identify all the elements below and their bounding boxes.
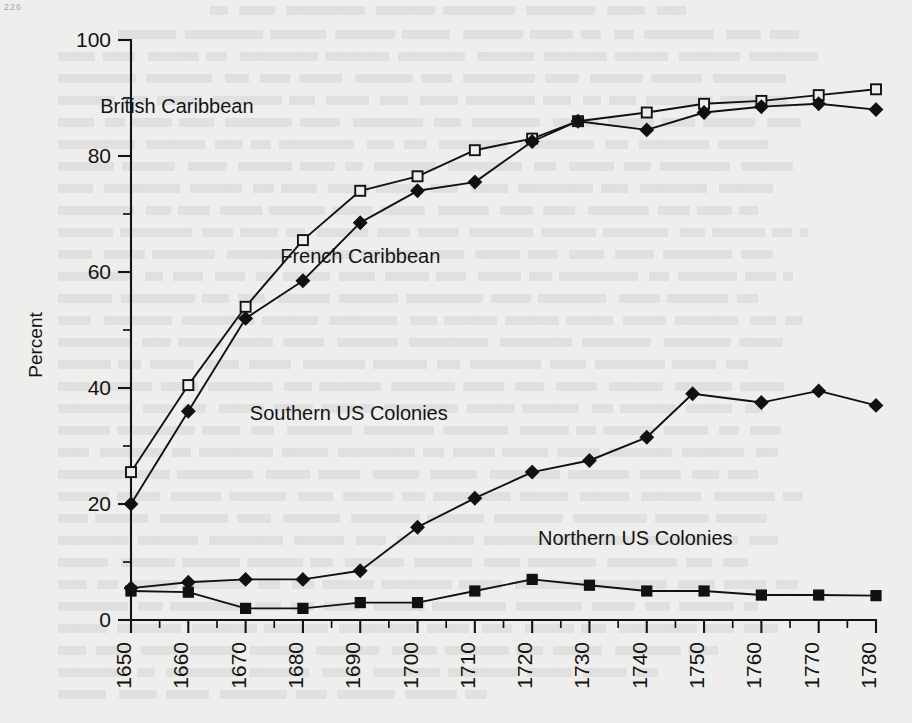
series-2-point-3 [296, 573, 309, 586]
x-tick-label-1740: 1740 [628, 642, 651, 689]
series-2-point-2 [239, 573, 252, 586]
series-1-point-1 [182, 405, 195, 418]
series-label-0: British Caribbean [100, 95, 253, 117]
x-tick-label-1660: 1660 [169, 642, 192, 689]
series-3-point-2 [241, 603, 251, 613]
y-tick-label-0: 0 [99, 608, 111, 631]
series-0-point-1 [183, 380, 193, 390]
series-label-1: French Caribbean [280, 245, 440, 267]
series-0-point-13 [871, 84, 881, 94]
y-tick-label-40: 40 [88, 376, 111, 399]
series-0-point-3 [298, 235, 308, 245]
x-tick-label-1780: 1780 [857, 642, 880, 689]
x-tick-label-1650: 1650 [112, 642, 135, 689]
series-0-point-4 [355, 186, 365, 196]
y-tick-label-100: 100 [76, 28, 111, 51]
series-2-point-6 [468, 492, 481, 505]
x-tick-label-1670: 1670 [227, 642, 250, 689]
series-3-point-8 [584, 580, 594, 590]
percent-slaves-line-chart: 020406080100Percent165016601670168016901… [0, 0, 912, 723]
series-0-point-9 [642, 108, 652, 118]
series-0-point-5 [413, 171, 423, 181]
series-3-point-11 [756, 590, 766, 600]
series-0-point-2 [241, 302, 251, 312]
series-1-point-0 [124, 497, 137, 510]
series-3-point-3 [298, 603, 308, 613]
series-0-point-0 [126, 467, 136, 477]
x-tick-label-1760: 1760 [742, 642, 765, 689]
series-3-point-7 [527, 574, 537, 584]
series-line-0 [131, 89, 876, 472]
series-2-point-11 [755, 396, 768, 409]
series-2 [124, 384, 882, 594]
series-2-point-8 [583, 454, 596, 467]
x-tick-label-1690: 1690 [341, 642, 364, 689]
series-3-point-4 [355, 598, 365, 608]
x-tick-label-1730: 1730 [570, 642, 593, 689]
series-1-point-6 [468, 176, 481, 189]
series-2-point-7 [526, 466, 539, 479]
series-1-point-13 [869, 103, 882, 116]
y-axis-title: Percent [25, 312, 46, 378]
x-tick-label-1770: 1770 [800, 642, 823, 689]
series-3-point-12 [814, 590, 824, 600]
y-tick-label-80: 80 [88, 144, 111, 167]
series-2-point-12 [812, 384, 825, 397]
series-label-3: Northern US Colonies [538, 527, 733, 549]
series-3-point-13 [871, 591, 881, 601]
series-line-2 [131, 391, 876, 588]
series-0 [126, 84, 881, 477]
series-label-2: Southern US Colonies [250, 402, 448, 424]
y-tick-label-60: 60 [88, 260, 111, 283]
series-0-point-6 [470, 145, 480, 155]
series-3-point-6 [470, 586, 480, 596]
chart-page: 226 020406080100Percent16501660167016801… [0, 0, 912, 723]
x-tick-label-1700: 1700 [399, 642, 422, 689]
axis-spines [131, 40, 876, 620]
chart-render-root: 020406080100Percent165016601670168016901… [25, 28, 883, 689]
series-2-point-13 [869, 399, 882, 412]
x-tick-label-1710: 1710 [456, 642, 479, 689]
series-3-point-9 [642, 586, 652, 596]
series-1 [124, 97, 882, 510]
y-tick-label-20: 20 [88, 492, 111, 515]
x-tick-label-1750: 1750 [685, 642, 708, 689]
x-tick-label-1680: 1680 [284, 642, 307, 689]
x-tick-label-1720: 1720 [513, 642, 536, 689]
series-3-point-10 [699, 586, 709, 596]
series-3-point-5 [413, 598, 423, 608]
series-1-point-9 [640, 123, 653, 136]
series-3-point-0 [126, 586, 136, 596]
series-3-point-1 [183, 587, 193, 597]
series-1-point-5 [411, 184, 424, 197]
